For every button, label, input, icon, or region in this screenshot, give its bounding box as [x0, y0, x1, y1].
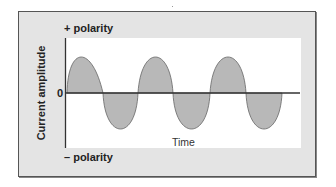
- positive-lobe-3: [210, 57, 246, 93]
- positive-polarity-label: + polarity: [64, 22, 113, 34]
- zero-label: 0: [57, 87, 63, 99]
- negative-lobe-3: [246, 93, 282, 129]
- waveform-graphic: [0, 0, 336, 187]
- positive-lobe-1: [67, 57, 103, 93]
- current-amplitude-axis-label: Current amplitude: [35, 46, 47, 141]
- positive-lobe-2: [138, 57, 173, 93]
- time-axis-label: Time: [172, 136, 195, 148]
- negative-polarity-label: – polarity: [64, 151, 113, 163]
- negative-lobe-1: [103, 93, 138, 129]
- negative-lobe-2: [173, 93, 210, 129]
